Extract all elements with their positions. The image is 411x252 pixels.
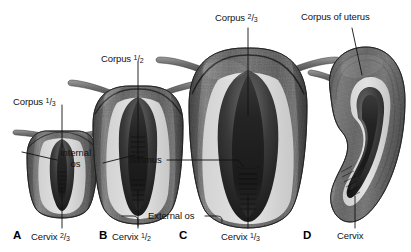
callout-external-os: External os — [148, 211, 194, 222]
callout-isthmus: Isthmus — [129, 155, 162, 166]
uterus-development-figure — [0, 0, 411, 252]
internal-os-line1: Internal — [60, 148, 91, 159]
internal-os-line2: os — [60, 159, 91, 170]
panel-letter-a: A — [13, 229, 21, 241]
label-cervix-d: Cervix — [337, 231, 363, 242]
label-cervix-b: Cervix 1/2 — [112, 231, 151, 245]
panel-letter-d: D — [303, 229, 311, 241]
callout-internal-os: Internal os — [60, 148, 91, 169]
label-corpus-a: Corpus 1/3 — [13, 96, 56, 110]
label-corpus-c: Corpus 2/3 — [215, 12, 258, 26]
label-corpus-b: Corpus 1/2 — [101, 53, 144, 67]
panel-letter-b: B — [99, 229, 107, 241]
panel-letter-c: C — [179, 229, 187, 241]
label-corpus-of-uterus-d: Corpus of uterus — [301, 12, 370, 23]
label-cervix-c: Cervix 1/3 — [221, 231, 260, 245]
label-cervix-a: Cervix 2/3 — [31, 231, 70, 245]
